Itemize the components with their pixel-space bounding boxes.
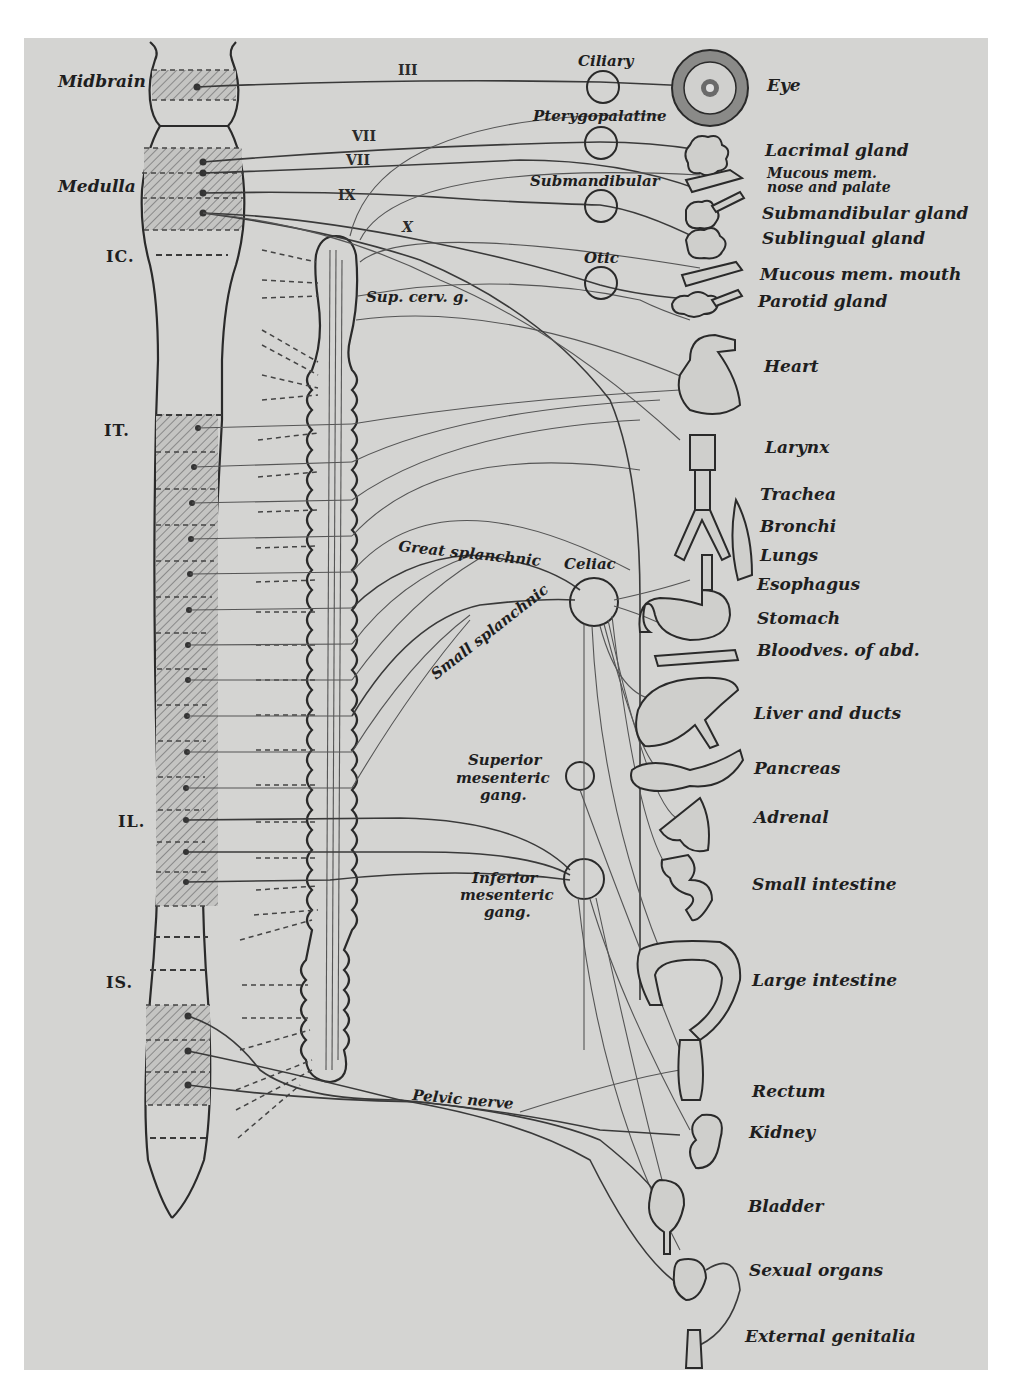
cns-labels: Midbrain Medulla IC. IT. IL. IS. xyxy=(57,71,146,992)
label-inf-mesenteric-2: mesenteric xyxy=(460,886,554,904)
label-nerve-x: X xyxy=(401,219,414,235)
label-sup-mesenteric-1: Superior xyxy=(468,751,542,769)
sublingual-gland-icon xyxy=(686,228,726,258)
label-celiac: Celiac xyxy=(564,555,616,573)
label-nerve-ix: IX xyxy=(338,187,356,203)
eye-icon xyxy=(672,50,748,126)
label-lacrimal: Lacrimal gland xyxy=(764,140,909,160)
autonomic-nervous-system-diagram: Midbrain Medulla IC. IT. IL. IS. III VII… xyxy=(0,0,1012,1383)
label-pelvic-nerve: Pelvic nerve xyxy=(411,1086,515,1113)
stomach-icon xyxy=(639,590,730,640)
lungs-icon xyxy=(732,500,752,580)
label-kidney: Kidney xyxy=(748,1122,816,1142)
label-sexual-organs: Sexual organs xyxy=(749,1260,884,1280)
sexual-organs-icon xyxy=(674,1259,706,1300)
liver-icon xyxy=(636,678,738,748)
mucous-mouth-icon xyxy=(682,262,742,286)
label-sup-cerv-g: Sup. cerv. g. xyxy=(366,288,469,306)
label-midbrain: Midbrain xyxy=(57,71,146,91)
label-eye: Eye xyxy=(766,75,801,95)
gray-rami xyxy=(236,250,318,1138)
label-sublingual: Sublingual gland xyxy=(762,228,925,248)
label-level-s1: IS. xyxy=(106,973,133,992)
trachea-icon xyxy=(695,470,710,510)
label-adrenal: Adrenal xyxy=(752,807,829,827)
bloodvessels-icon xyxy=(655,650,738,666)
esophagus-icon xyxy=(702,555,712,590)
celiac-ganglion xyxy=(570,578,618,626)
larynx-icon xyxy=(690,435,715,470)
label-sup-mesenteric-3: gang. xyxy=(480,786,527,804)
label-level-t1: IT. xyxy=(104,421,130,440)
label-esophagus: Esophagus xyxy=(756,574,860,594)
label-nerve-vii-a: VII xyxy=(351,128,376,144)
cranial-outflow xyxy=(194,81,701,1000)
label-submandibular: Submandibular xyxy=(530,172,661,190)
label-nerve-vii-b: VII xyxy=(345,152,370,168)
organ-labels: Eye Lacrimal gland Mucous mem. nose and … xyxy=(744,75,969,1346)
label-nerve-iii: III xyxy=(398,62,418,78)
small-intestine-icon xyxy=(662,855,712,920)
label-small-splanchnic: Small splanchnic xyxy=(427,580,552,683)
rectum-icon xyxy=(678,1040,703,1100)
otic-ganglion xyxy=(585,267,617,299)
label-rectum: Rectum xyxy=(751,1081,826,1101)
label-liver: Liver and ducts xyxy=(753,703,902,723)
label-trachea: Trachea xyxy=(760,484,836,504)
external-genitalia-icon xyxy=(686,1330,702,1368)
midbrain-hatched-zone xyxy=(152,70,236,100)
organs xyxy=(631,50,752,1368)
label-mucous-nose-2: nose and palate xyxy=(767,179,891,195)
ganglion-labels: Ciliary Pterygopalatine Submandibular Ot… xyxy=(366,52,667,921)
label-ciliary: Ciliary xyxy=(578,52,635,70)
bronchi-icon xyxy=(675,510,730,560)
label-bloodvessels: Bloodves. of abd. xyxy=(756,640,920,660)
pancreas-icon xyxy=(631,750,743,791)
label-level-c1: IC. xyxy=(106,247,135,266)
lacrimal-gland-icon xyxy=(685,136,728,176)
parotid-gland-icon xyxy=(672,292,718,317)
label-submandibular-gland: Submandibular gland xyxy=(762,203,969,223)
label-parotid: Parotid gland xyxy=(757,291,887,311)
label-otic: Otic xyxy=(584,249,619,267)
label-pterygopalatine: Pterygopalatine xyxy=(532,107,667,125)
large-intestine-icon xyxy=(638,941,741,1040)
label-inf-mesenteric-3: gang. xyxy=(484,903,531,921)
abdominal-ganglia xyxy=(564,578,690,1250)
label-bronchi: Bronchi xyxy=(759,516,836,536)
bladder-icon xyxy=(649,1180,684,1254)
kidney-icon xyxy=(690,1115,722,1168)
spinal-cord xyxy=(142,42,245,1218)
thoracolumbar-hatched-zone xyxy=(156,414,218,906)
label-small-intestine: Small intestine xyxy=(752,874,897,894)
label-pancreas: Pancreas xyxy=(753,758,841,778)
label-stomach: Stomach xyxy=(757,608,840,628)
label-mucous-mouth: Mucous mem. mouth xyxy=(759,264,961,284)
label-bladder: Bladder xyxy=(747,1196,824,1216)
ciliary-ganglion xyxy=(587,71,619,103)
label-medulla: Medulla xyxy=(57,176,136,196)
label-larynx: Larynx xyxy=(764,437,830,457)
white-rami xyxy=(183,424,570,885)
label-large-intestine: Large intestine xyxy=(751,970,897,990)
heart-icon xyxy=(679,335,740,414)
submandibular-ganglion xyxy=(585,190,617,222)
label-sup-mesenteric-2: mesenteric xyxy=(456,769,550,787)
superior-mesenteric-ganglion xyxy=(566,762,594,790)
label-inf-mesenteric-1: Inferior xyxy=(471,869,539,887)
label-external-genitalia: External genitalia xyxy=(744,1326,916,1346)
label-level-l1: IL. xyxy=(118,812,145,831)
sympathetic-chain xyxy=(301,236,357,1082)
adrenal-icon xyxy=(660,798,709,851)
label-heart: Heart xyxy=(763,356,819,376)
label-lungs: Lungs xyxy=(759,545,819,565)
